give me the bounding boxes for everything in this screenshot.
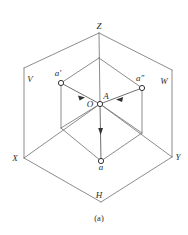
label-plane-h: H — [95, 190, 103, 200]
label-plane-v: V — [27, 74, 34, 84]
node-point-a[interactable] — [97, 101, 102, 106]
edge-inner-right-to-a-top — [101, 133, 142, 161]
label-point-a-front: a' — [55, 68, 63, 78]
arrowhead-a-front-to-A — [78, 96, 85, 101]
edge-h-bottom-to-y — [101, 157, 172, 202]
edge-origin-to-inner-right — [100, 104, 142, 133]
edge-z-to-v-corner — [24, 33, 99, 68]
edge-inner-left-to-a-top — [61, 128, 101, 161]
arrowhead-A-to-a-top — [98, 128, 103, 135]
label-plane-w: W — [160, 76, 169, 86]
label-axis-x: X — [11, 153, 18, 163]
edge-h-x-to-bottom — [24, 158, 101, 202]
edge-a-front-to-A — [61, 83, 100, 104]
edge-z-to-w-corner — [99, 33, 172, 70]
edge-h-origin-base-to-y — [100, 104, 172, 157]
edge-inner-top-to-a-front — [61, 58, 99, 83]
figure-container: Z V W a' a″ A O X Y a H (a) — [0, 0, 188, 235]
label-point-a-side: a″ — [136, 73, 145, 83]
edge-h-x-to-origin-base — [24, 104, 100, 158]
label-origin: O — [87, 99, 94, 109]
node-a-front[interactable] — [58, 80, 63, 85]
inner-projection-box — [61, 58, 142, 161]
node-a-side[interactable] — [139, 85, 144, 90]
label-point-A: A — [102, 91, 109, 101]
figure-caption: (a) — [94, 213, 104, 223]
labels: Z V W a' a″ A O X Y a H (a) — [11, 21, 181, 223]
label-axis-z: Z — [96, 21, 102, 31]
edge-origin-to-inner-left — [61, 104, 100, 128]
label-point-a-top: a — [99, 162, 104, 172]
projection-diagram: Z V W a' a″ A O X Y a H (a) — [0, 0, 188, 235]
edge-z-axis-vertical — [99, 33, 100, 104]
label-axis-y: Y — [175, 152, 181, 162]
